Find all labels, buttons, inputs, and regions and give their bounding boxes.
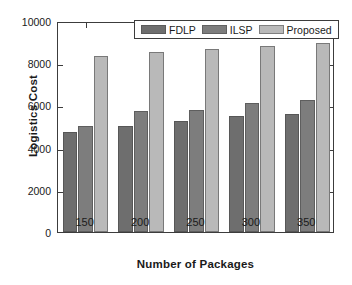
bar-chart-figure: Logistics Cost 0200040006000800010000 15…	[0, 0, 352, 285]
x-axis-title: Number of Packages	[57, 258, 334, 270]
bar-ilsp-200	[134, 111, 149, 232]
y-tick-label: 2000	[13, 185, 51, 197]
y-tick-label: 4000	[13, 143, 51, 155]
y-tick-label: 0	[13, 227, 51, 239]
plot-area	[57, 22, 334, 233]
y-tick-mark	[58, 107, 63, 108]
legend-entry-ilsp[interactable]: ILSP	[199, 24, 256, 36]
legend-swatch-proposed	[259, 25, 284, 34]
chart-legend: FDLPILSPProposed	[134, 20, 339, 39]
bar-proposed-150	[94, 56, 109, 232]
legend-swatch-fdlp	[141, 25, 166, 34]
y-tick-label: 6000	[13, 100, 51, 112]
plot-inner	[58, 23, 333, 232]
legend-label-proposed: Proposed	[287, 24, 332, 36]
legend-swatch-ilsp	[202, 25, 227, 34]
bar-ilsp-300	[245, 103, 260, 232]
bar-fdlp-300	[229, 116, 244, 232]
y-tick-mark	[58, 65, 63, 66]
bar-ilsp-250	[189, 110, 204, 232]
legend-entry-fdlp[interactable]: FDLP	[138, 24, 199, 36]
y-tick-label: 10000	[13, 16, 51, 28]
bar-ilsp-350	[300, 100, 315, 232]
bar-fdlp-350	[285, 114, 300, 232]
bar-proposed-250	[205, 49, 220, 232]
legend-label-ilsp: ILSP	[230, 24, 253, 36]
x-tick-label: 200	[110, 216, 170, 228]
legend-entry-proposed[interactable]: Proposed	[256, 24, 335, 36]
bar-proposed-350	[316, 43, 331, 232]
x-tick-label: 300	[221, 216, 281, 228]
bar-proposed-200	[149, 52, 164, 232]
legend-label-fdlp: FDLP	[169, 24, 196, 36]
x-tick-mark	[86, 23, 87, 28]
x-tick-label: 250	[166, 216, 226, 228]
y-tick-label: 8000	[13, 58, 51, 70]
x-tick-label: 150	[55, 216, 115, 228]
bar-proposed-300	[260, 46, 275, 232]
x-tick-label: 350	[276, 216, 336, 228]
